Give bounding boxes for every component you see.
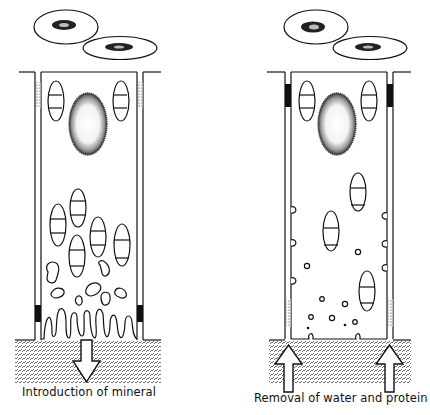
mitochondria-cluster <box>50 189 130 277</box>
diagram-canvas <box>0 0 430 415</box>
invaginations <box>291 207 387 284</box>
secretory-granules <box>47 261 127 306</box>
stippled-junction <box>36 82 41 108</box>
caption-removal-of-water-and-protein: Removal of water and protein <box>254 391 428 405</box>
solid-junction <box>137 305 143 322</box>
solid-junction <box>35 305 41 322</box>
nucleus <box>318 93 356 155</box>
left-panel <box>15 10 161 383</box>
stippled-junction <box>138 82 143 108</box>
caption-introduction-of-mineral: Introduction of mineral <box>22 385 156 399</box>
solid-junction <box>387 84 393 107</box>
right-panel <box>267 10 411 392</box>
floating-cell-top-right <box>333 37 407 60</box>
floating-cell-top-left <box>284 10 348 44</box>
ruffled-border <box>41 309 137 339</box>
floating-cell-top-left <box>34 10 98 44</box>
nucleus <box>69 93 107 155</box>
vesicles <box>304 249 360 324</box>
stippled-junction <box>388 299 393 327</box>
stippled-junction <box>286 299 291 327</box>
floating-cell-top-right <box>83 37 157 60</box>
solid-junction <box>285 84 291 107</box>
